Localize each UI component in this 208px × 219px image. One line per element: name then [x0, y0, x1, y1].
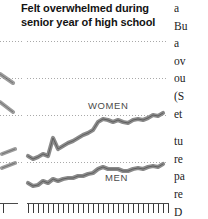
- series-label-men: MEN: [105, 172, 128, 183]
- x-axis-tick: [68, 204, 69, 213]
- x-axis-tick: [128, 204, 129, 213]
- x-axis-tick: [108, 204, 109, 213]
- x-axis-tick: [63, 204, 64, 213]
- adjacent-text-column: a Bu a ov ou (S et tu re pa re D ha: [174, 0, 208, 219]
- series-label-women: WOMEN: [88, 100, 128, 111]
- text-line: pa: [174, 168, 208, 186]
- x-axis-tick: [133, 204, 134, 213]
- x-axis-tick: [163, 204, 164, 213]
- x-axis-tick: [98, 204, 99, 213]
- text-line: Bu: [174, 18, 208, 36]
- chart-panel: Felt overwhelmed during senior year of h…: [0, 0, 172, 219]
- x-axis-tick: [118, 204, 119, 213]
- x-axis-tick: [53, 204, 54, 213]
- clipped-neighbour-series: [0, 74, 15, 168]
- x-axis-tick: [93, 204, 94, 213]
- x-axis-tick: [153, 204, 154, 213]
- x-axis-tick: [83, 204, 84, 213]
- text-line: ou: [174, 70, 208, 88]
- x-axis-tick: [143, 204, 144, 213]
- text-line: re: [174, 151, 208, 169]
- figure-root: Felt overwhelmed during senior year of h…: [0, 0, 208, 219]
- x-axis-tick: [88, 204, 89, 213]
- plot-area: WOMEN MEN: [0, 30, 172, 219]
- x-axis-tick: [158, 204, 159, 213]
- x-axis-tick: [48, 204, 49, 213]
- series-men: [28, 164, 163, 186]
- chart-title-line-2: senior year of high school: [21, 16, 167, 30]
- chart-title-line-1: Felt overwhelmed during: [21, 2, 167, 16]
- text-line: a: [174, 0, 208, 18]
- series-women: [28, 113, 163, 159]
- x-axis-tick: [73, 204, 74, 213]
- text-line: ov: [174, 53, 208, 71]
- x-axis-tick: [78, 204, 79, 213]
- x-axis-tick: [168, 204, 169, 213]
- x-axis-tick: [33, 204, 34, 213]
- paragraph-gap: [174, 123, 208, 133]
- x-axis-tick: [138, 204, 139, 213]
- series-svg: [0, 30, 172, 219]
- x-axis-tick: [43, 204, 44, 213]
- text-line: a: [174, 35, 208, 53]
- x-axis-tick: [113, 204, 114, 213]
- x-axis-tick: [148, 204, 149, 213]
- x-axis-tick-clipped: [3, 204, 4, 213]
- x-axis-tick: [38, 204, 39, 213]
- x-axis-tick: [103, 204, 104, 213]
- chart-title: Felt overwhelmed during senior year of h…: [21, 2, 167, 29]
- text-line: (S: [174, 88, 208, 106]
- x-axis-tick: [28, 204, 29, 213]
- x-axis-tick: [123, 204, 124, 213]
- x-axis-tick: [58, 204, 59, 213]
- text-line: D: [174, 204, 208, 219]
- text-line: et: [174, 106, 208, 124]
- text-line: re: [174, 186, 208, 204]
- text-line: tu: [174, 133, 208, 151]
